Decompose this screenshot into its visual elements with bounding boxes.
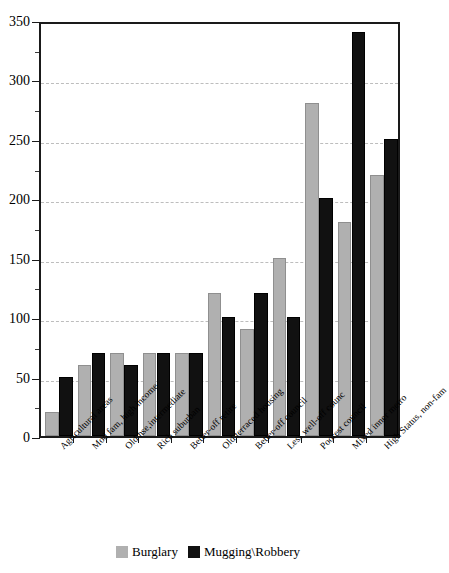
bar-mugging-0 [59,377,73,436]
x-axis-tick [268,438,269,443]
x-axis-tick [366,438,367,443]
gridline [41,143,398,144]
y-axis-tick-label: 50 [0,372,30,386]
plot-area [39,22,400,438]
x-axis-tick [106,438,107,443]
bar-burglary-8 [305,103,319,436]
legend-entry-mugging: Mugging\Robbery [188,544,300,560]
y-axis-tick-label: 100 [0,312,30,326]
legend-entry-burglary: Burglary [116,544,178,560]
y-axis-tick-label: 200 [0,193,30,207]
legend-swatch-icon [116,546,128,558]
legend-swatch-icon [188,546,200,558]
bar-burglary-7 [273,258,287,436]
y-axis-tick-label: 250 [0,134,30,148]
legend-label: Mugging\Robbery [204,544,300,560]
x-axis-tick [73,438,74,443]
y-axis-major-tick [32,438,40,439]
x-axis-tick [203,438,204,443]
bar-burglary-0 [45,412,59,436]
chart-legend: BurglaryMugging\Robbery [0,544,416,560]
gridline [41,83,398,84]
x-axis-tick [171,438,172,443]
y-axis-tick-label: 0 [0,431,30,445]
x-axis-tick [138,438,139,443]
bar-mugging-4 [189,353,203,436]
x-axis-tick [301,438,302,443]
bar-mugging-9 [352,32,366,436]
bar-burglary-10 [370,175,384,436]
y-axis-tick-label: 300 [0,74,30,88]
bar-mugging-10 [384,139,398,436]
x-axis-tick [236,438,237,443]
y-axis-tick-label: 150 [0,253,30,267]
legend-label: Burglary [132,544,178,560]
gridline [41,202,398,203]
y-axis-tick-label: 350 [0,15,30,29]
chart-title [0,0,416,5]
x-axis-tick [333,438,334,443]
